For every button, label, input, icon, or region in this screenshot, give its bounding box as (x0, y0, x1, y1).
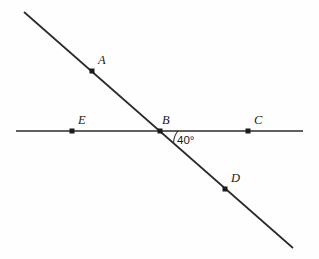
geometry-diagram-canvas: A B C D E 40° (0, 0, 319, 259)
point-label-D: D (230, 171, 240, 185)
point-dot-B (158, 129, 163, 134)
geometry-figure: A B C D E 40° (0, 0, 319, 259)
point-dot-D (223, 187, 228, 192)
point-label-A: A (97, 53, 106, 67)
point-label-B: B (162, 113, 170, 127)
point-dot-A (90, 69, 95, 74)
point-dot-C (246, 129, 251, 134)
point-label-E: E (77, 113, 86, 127)
point-dot-E (70, 129, 75, 134)
point-label-C: C (254, 113, 263, 127)
angle-measure-label: 40° (177, 134, 194, 146)
